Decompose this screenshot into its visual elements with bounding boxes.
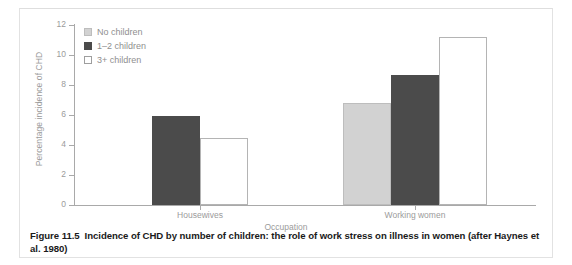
figure-caption: Figure 11.5Incidence of CHD by number of… (30, 229, 546, 255)
y-axis-tick-label: 2 (44, 169, 66, 179)
y-axis-tick-label: 8 (44, 79, 66, 89)
y-axis-tick (69, 55, 75, 56)
y-axis-tick-label: 12 (44, 19, 66, 29)
y-axis-tick (69, 175, 75, 176)
bar-1-1 (391, 75, 439, 206)
figure-container: Percentage incidence of CHD 024681012 Ho… (0, 0, 572, 265)
legend-swatch-icon (84, 56, 92, 64)
x-axis-group-label: Housewives (140, 210, 260, 220)
bar-0-2 (200, 138, 248, 206)
y-axis-tick-label: 6 (44, 109, 66, 119)
figure-caption-label: Figure 11.5 (30, 230, 80, 241)
x-axis-line (74, 205, 536, 206)
legend-item: 3+ children (84, 53, 146, 66)
legend-label: 3+ children (97, 55, 141, 65)
bar-0-1 (152, 116, 200, 205)
chart-plot-area: Percentage incidence of CHD 024681012 Ho… (0, 0, 572, 222)
y-axis-tick (69, 115, 75, 116)
legend-label: No children (97, 27, 143, 37)
legend-label: 1–2 children (97, 41, 146, 51)
bar-1-2 (439, 37, 487, 205)
y-axis-tick-label: 0 (44, 199, 66, 209)
y-axis-tick-label: 4 (44, 139, 66, 149)
y-axis-tick (69, 85, 75, 86)
legend-swatch-icon (84, 42, 92, 50)
chart-legend: No children1–2 children3+ children (84, 25, 146, 67)
y-axis-title: Percentage incidence of CHD (34, 24, 44, 194)
y-axis-tick (69, 205, 75, 206)
legend-swatch-icon (84, 28, 92, 36)
legend-item: No children (84, 25, 146, 38)
y-axis-tick (69, 25, 75, 26)
x-axis-group-label: Working women (355, 210, 475, 220)
figure-caption-text: Incidence of CHD by number of children: … (30, 230, 539, 254)
bar-1-0 (343, 103, 391, 205)
y-axis-tick (69, 145, 75, 146)
legend-item: 1–2 children (84, 39, 146, 52)
y-axis-tick-label: 10 (44, 49, 66, 59)
